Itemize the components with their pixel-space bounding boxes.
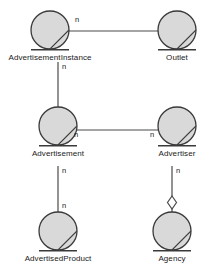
multiplicity-label-advertisementinstance-outlet: n xyxy=(75,16,79,24)
node-layer xyxy=(31,11,196,251)
node-circle-icon xyxy=(39,107,77,145)
node-label-outlet: Outlet xyxy=(166,53,188,63)
node-advertised-product[interactable] xyxy=(39,212,77,251)
node-circle-icon xyxy=(158,11,196,49)
node-label-advertisement-instance: AdvertisementInstance xyxy=(8,53,91,63)
node-advertiser[interactable] xyxy=(158,107,196,146)
node-outlet[interactable] xyxy=(158,11,196,50)
node-agency[interactable] xyxy=(153,212,191,251)
node-label-advertisement: Advertisement xyxy=(32,149,84,159)
aggregation-diamond-icon xyxy=(168,196,177,209)
node-circle-icon xyxy=(158,107,196,145)
multiplicity-label-advertiser-agency: n xyxy=(176,167,180,175)
node-advertisement[interactable] xyxy=(39,107,77,146)
node-circle-icon xyxy=(39,212,77,250)
node-label-advertiser: Advertiser xyxy=(159,149,196,159)
node-circle-icon xyxy=(153,212,191,250)
node-circle-icon xyxy=(31,11,69,49)
multiplicity-label-advertisement-advertiser-left: n xyxy=(74,131,78,139)
diagram-canvas xyxy=(0,0,214,280)
node-advertisement-instance[interactable] xyxy=(31,11,69,50)
multiplicity-label-advertisement-advertisedproduct-top: n xyxy=(62,167,66,175)
node-label-agency: Agency xyxy=(158,254,185,264)
multiplicity-label-advertisement-advertiser-right: n xyxy=(150,131,154,139)
object-model-diagram: AdvertisementInstance Outlet Advertiseme… xyxy=(0,0,214,280)
node-label-advertised-product: AdvertisedProduct xyxy=(25,254,92,264)
multiplicity-label-advertisementinstance-advertisement: n xyxy=(62,63,66,71)
multiplicity-label-advertisement-advertisedproduct-bottom: n xyxy=(62,202,66,210)
